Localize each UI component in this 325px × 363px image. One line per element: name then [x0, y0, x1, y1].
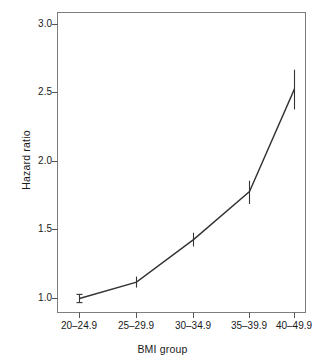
- y-axis-ticks: [52, 25, 58, 299]
- hazard-ratio-chart: Hazard ratio BMI group 3.0 2.5 2.0 1.5 1…: [0, 0, 325, 363]
- hazard-ratio-line: [80, 89, 295, 299]
- plot-area: [0, 0, 325, 363]
- error-bars: [77, 70, 295, 303]
- x-axis-ticks: [80, 313, 295, 319]
- plot-frame: [58, 13, 306, 313]
